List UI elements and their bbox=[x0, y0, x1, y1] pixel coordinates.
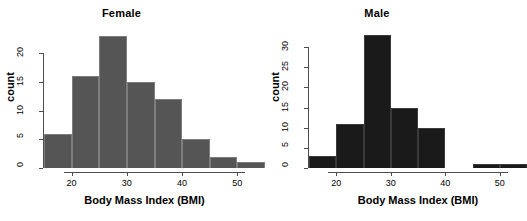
x-axis-line bbox=[328, 172, 508, 173]
panel-male: Male count 051015202530 Body Mass Index … bbox=[265, 0, 527, 221]
panel-title-male: Male bbox=[265, 7, 527, 19]
y-axis-tick-label: 25 bbox=[281, 61, 290, 71]
plot-area-male bbox=[309, 33, 527, 168]
y-axis-tick-label: 0 bbox=[16, 162, 25, 167]
plot-area-female bbox=[44, 33, 265, 168]
x-axis-tick bbox=[182, 172, 183, 176]
histogram-bar bbox=[500, 164, 527, 168]
bars-male bbox=[309, 33, 527, 168]
y-axis-tick bbox=[304, 67, 308, 68]
y-axis-tick-label: 10 bbox=[16, 105, 25, 115]
panel-title-female: Female bbox=[0, 7, 265, 19]
x-axis-tick-label: 30 bbox=[386, 179, 396, 188]
histogram-figure: Female count 05101520 Body Mass Index (B… bbox=[0, 0, 527, 221]
panel-female: Female count 05101520 Body Mass Index (B… bbox=[0, 0, 265, 221]
y-axis-tick bbox=[304, 47, 308, 48]
x-axis-tick bbox=[500, 172, 501, 176]
x-axis-tick bbox=[237, 172, 238, 176]
histogram-bar bbox=[127, 82, 155, 168]
x-axis-tick bbox=[445, 172, 446, 176]
x-axis-tick-label: 50 bbox=[495, 179, 505, 188]
x-axis-title-female: Body Mass Index (BMI) bbox=[34, 194, 255, 206]
histogram-bar bbox=[336, 124, 363, 168]
bars-female bbox=[44, 33, 265, 168]
x-axis-tick bbox=[127, 172, 128, 176]
y-axis-tick bbox=[39, 82, 43, 83]
y-axis-tick-label: 20 bbox=[16, 47, 25, 57]
y-axis-tick-label: 5 bbox=[281, 142, 290, 147]
histogram-bar bbox=[237, 162, 265, 168]
y-axis-tick-label: 30 bbox=[281, 41, 290, 51]
y-axis-tick-label: 10 bbox=[281, 122, 290, 132]
x-axis-tick-label: 20 bbox=[331, 179, 341, 188]
x-axis-tick-label: 50 bbox=[232, 179, 242, 188]
histogram-bar bbox=[309, 156, 336, 168]
histogram-bar bbox=[391, 108, 418, 168]
x-axis-tick-label: 20 bbox=[67, 179, 77, 188]
y-axis-tick bbox=[304, 108, 308, 109]
x-axis-tick bbox=[391, 172, 392, 176]
y-axis-tick bbox=[39, 139, 43, 140]
y-axis-tick bbox=[39, 53, 43, 54]
x-axis-line bbox=[64, 172, 246, 173]
histogram-bar bbox=[72, 76, 100, 168]
y-axis-tick-label: 0 bbox=[281, 162, 290, 167]
x-axis-tick bbox=[72, 172, 73, 176]
x-axis-title-male: Body Mass Index (BMI) bbox=[309, 194, 527, 206]
y-axis-tick bbox=[304, 128, 308, 129]
x-axis-tick bbox=[336, 172, 337, 176]
histogram-bar bbox=[182, 139, 210, 168]
y-axis-tick bbox=[304, 87, 308, 88]
histogram-bar bbox=[473, 164, 500, 168]
y-axis-tick bbox=[304, 148, 308, 149]
x-axis-tick-label: 40 bbox=[177, 179, 187, 188]
histogram-bar bbox=[44, 134, 72, 168]
histogram-bar bbox=[155, 99, 183, 168]
histogram-bar bbox=[210, 157, 238, 168]
x-axis-tick-label: 40 bbox=[440, 179, 450, 188]
histogram-bar bbox=[364, 35, 391, 168]
y-axis-tick bbox=[39, 111, 43, 112]
y-axis-tick-label: 5 bbox=[16, 133, 25, 138]
y-axis-tick bbox=[304, 168, 308, 169]
y-axis-tick-label: 15 bbox=[281, 102, 290, 112]
histogram-bar bbox=[418, 128, 445, 168]
histogram-bar bbox=[99, 36, 127, 168]
y-axis-tick-label: 15 bbox=[16, 76, 25, 86]
y-axis-tick bbox=[39, 168, 43, 169]
y-axis-tick-label: 20 bbox=[281, 81, 290, 91]
x-axis-tick-label: 30 bbox=[122, 179, 132, 188]
